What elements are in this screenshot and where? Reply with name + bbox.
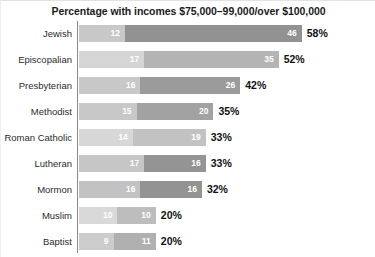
bar-total-label: 32% (207, 181, 228, 198)
bar-segment-75k-99k: 17 (79, 51, 144, 68)
category-label-lutheran: Lutheran (1, 155, 72, 172)
bar-segment-75k-99k: 15 (79, 103, 137, 120)
bar-segment-over-100k: 19 (133, 129, 206, 146)
bar-row: Episcopalian173552% (1, 51, 375, 68)
bar-segment-value: 16 (191, 155, 200, 172)
bar-row: Muslim101020% (1, 207, 375, 224)
stacked-bar: 1246 (79, 25, 302, 42)
bar-total-label: 35% (218, 103, 239, 120)
bar-segment-value: 16 (126, 77, 135, 94)
bar-row: Roman Catholic141933% (1, 129, 375, 146)
bar-segment-over-100k: 10 (117, 207, 155, 224)
bar-segment-value: 17 (130, 51, 139, 68)
bar-segment-over-100k: 16 (144, 155, 205, 172)
stacked-bar: 1419 (79, 129, 206, 146)
bar-row: Lutheran171633% (1, 155, 375, 172)
bar-segment-value: 12 (111, 25, 120, 42)
stacked-bar: 1520 (79, 103, 213, 120)
bar-segment-value: 26 (226, 77, 235, 94)
bar-segment-75k-99k: 16 (79, 181, 140, 198)
bar-segment-over-100k: 11 (114, 233, 156, 250)
bar-row: Jewish124658% (1, 25, 375, 42)
bar-segment-over-100k: 35 (144, 51, 278, 68)
bar-segment-value: 11 (142, 233, 151, 250)
bar-total-label: 20% (161, 233, 182, 250)
bar-segment-value: 17 (130, 155, 139, 172)
stacked-bar: 1616 (79, 181, 202, 198)
bar-segment-value: 19 (191, 129, 200, 146)
bar-row: Presbyterian162642% (1, 77, 375, 94)
bar-row: Methodist152035% (1, 103, 375, 120)
bar-segment-75k-99k: 16 (79, 77, 140, 94)
bar-segment-value: 15 (122, 103, 131, 120)
bar-segment-75k-99k: 12 (79, 25, 125, 42)
bar-total-label: 20% (161, 207, 182, 224)
bar-segment-value: 14 (118, 129, 127, 146)
chart-frame: Percentage with incomes $75,000–99,000/o… (0, 0, 375, 257)
bar-segment-75k-99k: 9 (79, 233, 114, 250)
category-label-muslim: Muslim (1, 207, 72, 224)
chart-title: Percentage with incomes $75,000–99,000/o… (1, 5, 375, 17)
bar-segment-over-100k: 46 (125, 25, 302, 42)
category-label-methodist: Methodist (1, 103, 72, 120)
stacked-bar: 1626 (79, 77, 240, 94)
bar-segment-value: 10 (141, 207, 150, 224)
bar-total-label: 33% (211, 129, 232, 146)
stacked-bar: 911 (79, 233, 156, 250)
bar-segment-75k-99k: 10 (79, 207, 117, 224)
bar-segment-value: 10 (103, 207, 112, 224)
bar-segment-over-100k: 16 (140, 181, 201, 198)
bar-segment-value: 16 (126, 181, 135, 198)
bar-segment-value: 20 (199, 103, 208, 120)
bar-segment-value: 16 (187, 181, 196, 198)
stacked-bar: 1010 (79, 207, 156, 224)
category-label-roman-catholic: Roman Catholic (1, 129, 72, 146)
bar-total-label: 33% (211, 155, 232, 172)
bar-segment-over-100k: 26 (140, 77, 240, 94)
bar-row: Baptist91120% (1, 233, 375, 250)
bar-total-label: 52% (284, 51, 305, 68)
stacked-bar: 1735 (79, 51, 279, 68)
category-label-jewish: Jewish (1, 25, 72, 42)
bar-segment-over-100k: 20 (137, 103, 214, 120)
bar-row: Mormon161632% (1, 181, 375, 198)
category-label-mormon: Mormon (1, 181, 72, 198)
category-label-presbyterian: Presbyterian (1, 77, 72, 94)
bar-total-label: 42% (245, 77, 266, 94)
bar-segment-value: 35 (264, 51, 273, 68)
bar-total-label: 58% (307, 25, 328, 42)
bar-segment-75k-99k: 17 (79, 155, 144, 172)
bar-segment-value: 46 (287, 25, 296, 42)
chart-plot-area: Jewish124658%Episcopalian173552%Presbyte… (1, 20, 375, 257)
category-label-baptist: Baptist (1, 233, 72, 250)
category-label-episcopalian: Episcopalian (1, 51, 72, 68)
stacked-bar: 1716 (79, 155, 206, 172)
bar-segment-value: 9 (104, 233, 109, 250)
bar-segment-75k-99k: 14 (79, 129, 133, 146)
